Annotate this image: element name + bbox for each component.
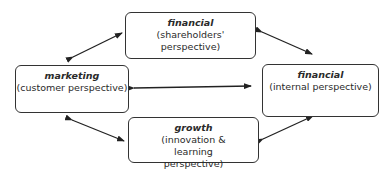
node-financial-internal: financial (internal perspective) xyxy=(262,64,379,117)
node-financial-shareholders: financial (shareholders' perspective) xyxy=(125,12,256,59)
node-growth: growth (innovation & learning perspectiv… xyxy=(128,117,259,163)
arrow-marketing-growth xyxy=(72,120,124,141)
node-marketing: marketing (customer perspective) xyxy=(15,65,129,113)
node-title: growth xyxy=(143,122,244,134)
node-subtitle: (customer perspective) xyxy=(16,82,128,94)
node-subtitle: (internal perspective) xyxy=(263,81,378,93)
node-subtitle: (shareholders' perspective) xyxy=(126,29,255,53)
arrow-marketing-financial-shareholders xyxy=(73,33,122,57)
node-subtitle: (innovation & learning perspective) xyxy=(143,134,244,170)
arrow-marketing-financial-internal xyxy=(134,86,251,88)
arrow-financial-shareholders-financial-internal xyxy=(262,32,312,54)
arrow-growth-financial-internal xyxy=(263,116,313,139)
node-title: financial xyxy=(126,17,255,29)
node-title: financial xyxy=(263,69,378,81)
node-title: marketing xyxy=(16,70,128,82)
